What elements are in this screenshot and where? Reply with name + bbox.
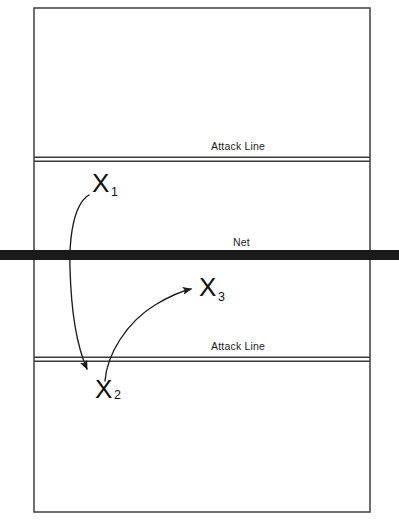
net-bar [0, 250, 399, 260]
player-x3-symbol: X [199, 272, 216, 302]
attack-line-bottom-label: Attack Line [211, 340, 265, 352]
attack-line-top-label: Attack Line [211, 140, 265, 152]
player-x3-subscript: 3 [218, 290, 225, 304]
court-svg-canvas: Attack Line Net Attack Line X 1 X 2 [0, 0, 399, 523]
player-x2-subscript: 2 [114, 388, 121, 402]
net-label: Net [233, 236, 250, 248]
player-x1-symbol: X [92, 168, 109, 198]
player-x1-subscript: 1 [111, 185, 118, 199]
volleyball-court-diagram: Attack Line Net Attack Line X 1 X 2 [0, 0, 399, 523]
player-x2-symbol: X [95, 374, 112, 404]
